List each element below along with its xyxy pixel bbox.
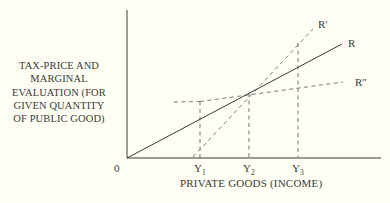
curve-r-prime — [193, 29, 313, 157]
curve-r-double-prime — [200, 82, 343, 102]
tick-y3: Y3 — [292, 162, 304, 177]
tick-y1: Y1 — [194, 162, 206, 177]
origin-label: 0 — [114, 162, 120, 174]
curve-r — [127, 44, 342, 158]
y1-horizontal-guide — [174, 102, 200, 103]
curve-r-prime-label: R′ — [318, 18, 328, 30]
tick-y2: Y2 — [243, 162, 255, 177]
x-axis-label: PRIVATE GOODS (INCOME) — [180, 177, 322, 189]
curve-r-label: R — [348, 37, 356, 49]
curve-r-double-prime-label: R″ — [355, 76, 367, 88]
diagram-canvas: R′ R R″ 0 Y1 Y2 Y3 — [0, 0, 390, 203]
